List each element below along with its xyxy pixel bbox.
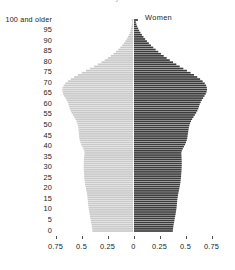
bar-women-age-0 [134, 230, 173, 232]
bar-men-age-62 [67, 99, 133, 101]
bar-women-age-53 [134, 118, 192, 120]
bar-women-age-5 [134, 220, 174, 222]
bar-men-age-45 [79, 135, 133, 137]
bar-women-age-34 [134, 158, 182, 160]
bar-women-age-35 [134, 156, 182, 158]
bar-men-age-47 [79, 131, 133, 133]
bar-women-age-3 [134, 224, 174, 226]
bar-men-age-91 [127, 38, 133, 40]
bar-women-age-30 [134, 167, 182, 169]
pyramid-bars [0, 0, 235, 270]
bar-women-age-21 [134, 186, 180, 188]
bar-women-age-49 [134, 127, 189, 129]
bar-men-age-95 [131, 30, 134, 32]
bar-men-age-3 [92, 224, 133, 226]
x-axis-tickmark-3 [134, 236, 135, 239]
bar-men-age-67 [62, 89, 133, 91]
bar-women-age-22 [134, 184, 180, 186]
x-axis-ticklabel-5: 0.5 [180, 242, 191, 251]
bar-men-age-69 [64, 85, 133, 87]
bar-women-age-66 [134, 91, 207, 93]
bar-women-age-39 [134, 148, 183, 150]
bar-women-age-41 [134, 144, 185, 146]
bar-women-age-48 [134, 129, 189, 131]
bar-men-age-77 [90, 68, 133, 70]
x-axis-tickmark-2 [108, 236, 109, 239]
x-axis-ticklabel-6: 0.75 [204, 242, 219, 251]
bar-men-age-97 [132, 25, 133, 27]
bar-women-age-84 [134, 53, 161, 55]
bar-men-age-38 [84, 150, 133, 152]
bar-women-age-60 [134, 104, 200, 106]
bar-women-age-89 [134, 42, 149, 44]
bar-men-age-92 [128, 36, 133, 38]
bar-men-age-81 [105, 59, 133, 61]
bar-women-age-19 [134, 190, 179, 192]
bar-men-age-35 [84, 156, 133, 158]
bar-men-age-76 [86, 70, 133, 72]
x-axis-ticklabel-3: 0 [131, 242, 135, 251]
bar-men-age-86 [118, 49, 133, 51]
bar-women-age-44 [134, 137, 187, 139]
bar-men-age-70 [65, 82, 133, 84]
bar-women-age-7 [134, 215, 175, 217]
bar-men-age-20 [86, 188, 133, 190]
bar-women-age-11 [134, 207, 177, 209]
bar-women-age-73 [134, 76, 197, 78]
bar-men-age-7 [90, 215, 133, 217]
bar-women-age-72 [134, 78, 200, 80]
bar-men-age-71 [68, 80, 133, 82]
bar-men-age-23 [85, 182, 133, 184]
bar-women-age-82 [134, 57, 167, 59]
bar-women-age-78 [134, 66, 180, 68]
bar-men-age-5 [91, 220, 133, 222]
bar-men-age-88 [122, 44, 133, 46]
bar-women-age-98 [134, 23, 136, 25]
bar-men-age-51 [77, 123, 133, 125]
bar-women-age-37 [134, 152, 181, 154]
bar-men-age-82 [108, 57, 133, 59]
bar-men-age-94 [130, 32, 133, 34]
bar-men-age-24 [85, 180, 133, 182]
bar-women-age-95 [134, 30, 139, 32]
bar-men-age-55 [73, 114, 133, 116]
x-axis-tickmark-0 [56, 236, 57, 239]
bar-women-age-74 [134, 74, 194, 76]
bar-women-age-93 [134, 34, 142, 36]
bar-men-age-63 [65, 97, 133, 99]
bar-women-age-16 [134, 196, 178, 198]
bar-men-age-98 [132, 23, 133, 25]
bar-women-age-45 [134, 135, 188, 137]
bar-women-age-4 [134, 222, 174, 224]
bar-men-age-18 [87, 192, 133, 194]
bar-women-age-92 [134, 36, 143, 38]
bar-women-age-77 [134, 68, 183, 70]
bar-men-age-66 [62, 91, 133, 93]
bar-men-age-52 [76, 120, 133, 122]
bar-men-age-0 [92, 230, 133, 232]
bar-women-age-26 [134, 175, 181, 177]
x-axis-tickmark-6 [212, 236, 213, 239]
bar-women-age-76 [134, 70, 187, 72]
bar-men-age-22 [85, 184, 133, 186]
x-axis-ticklabel-0: 0.75 [48, 242, 63, 251]
bar-men-age-39 [83, 148, 133, 150]
bar-women-age-28 [134, 171, 181, 173]
bar-women-age-25 [134, 177, 181, 179]
bar-women-age-55 [134, 114, 195, 116]
bar-men-age-56 [72, 112, 133, 114]
bar-men-age-16 [87, 196, 133, 198]
bar-men-age-32 [84, 163, 133, 165]
x-axis-ticklabel-2: 0.25 [100, 242, 115, 251]
bar-women-age-43 [134, 139, 187, 141]
bar-men-age-85 [116, 51, 133, 53]
bar-women-age-100 [134, 19, 138, 21]
bar-men-age-60 [69, 104, 133, 106]
bar-men-age-53 [75, 118, 133, 120]
bar-men-age-17 [87, 194, 133, 196]
bar-men-age-68 [63, 87, 133, 89]
bar-women-age-1 [134, 228, 173, 230]
bar-women-age-97 [134, 25, 137, 27]
bar-women-age-69 [134, 85, 206, 87]
bar-women-age-10 [134, 209, 176, 211]
